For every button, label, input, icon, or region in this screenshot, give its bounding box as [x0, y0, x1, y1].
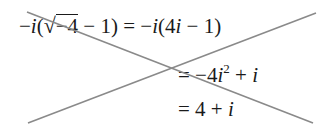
- strike-through-cross: [0, 0, 335, 139]
